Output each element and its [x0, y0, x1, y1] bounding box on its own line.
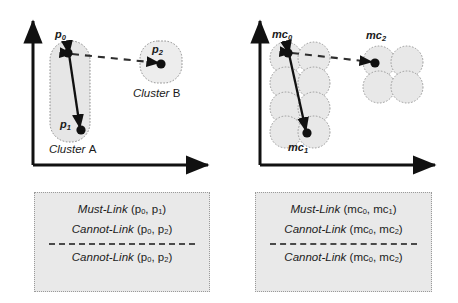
- legend-separator-left: [49, 243, 195, 245]
- label-p2: p2: [152, 44, 163, 55]
- label-mc1: mc1: [288, 142, 308, 153]
- point-mc2: [370, 58, 379, 67]
- panel-left: p0 p1 p2 Cluster A Cluster B Must-Link (…: [0, 0, 229, 303]
- label-mc2: mc2: [366, 30, 386, 41]
- legend-line-cannot-link-left-2: Cannot-Link (p0, p2): [72, 248, 172, 268]
- legend-box-left: Must-Link (p0, p1) Cannot-Link (p0, p2) …: [34, 192, 210, 292]
- legend-line-must-link-left: Must-Link (p0, p1): [78, 200, 166, 220]
- point-mc0: [283, 48, 292, 57]
- panel-right: mc0 mc1 mc2 Must-Link (mc0, mc1) Cannot-…: [229, 0, 458, 303]
- legend-line-must-link-right: Must-Link (mc0, mc1): [290, 200, 396, 220]
- microcluster-group-left: [270, 42, 330, 148]
- legend-box-right: Must-Link (mc0, mc1) Cannot-Link (mc0, m…: [255, 192, 432, 292]
- point-p2: [156, 59, 165, 68]
- constraint-clustering-figure: p0 p1 p2 Cluster A Cluster B Must-Link (…: [0, 0, 458, 303]
- point-mc1: [302, 128, 311, 137]
- legend-line-cannot-link-right-1: Cannot-Link (mc0, mc2): [284, 220, 402, 240]
- cluster-b-label: Cluster B: [133, 88, 180, 100]
- label-p0: p0: [55, 29, 66, 40]
- cluster-a-label: Cluster A: [49, 144, 96, 156]
- point-p0: [63, 48, 72, 57]
- legend-separator-right: [270, 243, 417, 245]
- legend-line-cannot-link-right-2: Cannot-Link (mc0, mc2): [284, 248, 402, 268]
- legend-line-cannot-link-left-1: Cannot-Link (p0, p2): [72, 220, 172, 240]
- point-p1: [76, 125, 85, 134]
- microcluster-group-right: [363, 46, 423, 103]
- label-mc0: mc0: [272, 29, 292, 40]
- label-p1: p1: [60, 119, 71, 130]
